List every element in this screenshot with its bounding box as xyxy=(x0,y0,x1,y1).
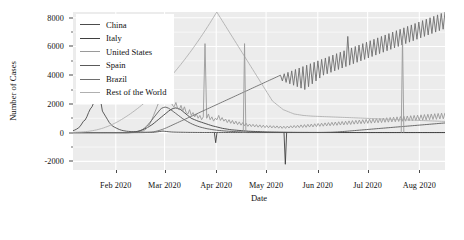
x-tick-label: Feb 2020 xyxy=(100,181,132,190)
y-tick-label: 4000 xyxy=(47,71,64,80)
x-axis-title: Date xyxy=(73,193,445,203)
y-tick-label: 0 xyxy=(60,128,64,137)
annotation-spike xyxy=(243,44,246,133)
legend-label: Rest of the World xyxy=(106,88,167,97)
x-tick-label: Apr 2020 xyxy=(200,181,232,190)
x-tick-mark xyxy=(318,170,319,173)
annotation-spike xyxy=(284,133,287,165)
legend[interactable]: ChinaItalyUnited StatesSpainBrazilRest o… xyxy=(76,14,174,104)
x-tick-label: Jul 2020 xyxy=(353,181,382,190)
legend-item[interactable]: Rest of the World xyxy=(80,86,167,100)
x-tick-mark xyxy=(266,170,267,173)
legend-label: Spain xyxy=(106,61,126,70)
x-tick-label: Mar 2020 xyxy=(148,181,181,190)
legend-item[interactable]: Spain xyxy=(80,59,167,73)
chart-figure: Number of Cases 80006000400020000-2000 C… xyxy=(0,0,464,240)
annotation-spike xyxy=(401,36,404,132)
legend-swatch-icon xyxy=(80,92,100,93)
y-tick-label: 6000 xyxy=(47,42,64,51)
legend-swatch-icon xyxy=(80,51,100,52)
x-tick-label: May 2020 xyxy=(249,181,283,190)
legend-item[interactable]: Brazil xyxy=(80,72,167,86)
x-tick-mark xyxy=(419,170,420,173)
y-tick-label: 8000 xyxy=(47,13,64,22)
x-tick-mark xyxy=(116,170,117,173)
y-tick-label: -2000 xyxy=(44,157,64,166)
x-tick-mark xyxy=(368,170,369,173)
x-tick-label: Jun 2020 xyxy=(302,181,333,190)
legend-swatch-icon xyxy=(80,65,100,66)
legend-item[interactable]: China xyxy=(80,18,167,32)
x-tick-mark xyxy=(165,170,166,173)
legend-label: United States xyxy=(106,48,152,57)
y-axis: 80006000400020000-2000 xyxy=(0,12,73,170)
x-tick-label: Aug 2020 xyxy=(403,181,436,190)
legend-item[interactable]: United States xyxy=(80,45,167,59)
legend-swatch-icon xyxy=(80,24,100,25)
x-tick-mark xyxy=(216,170,217,173)
legend-label: Italy xyxy=(106,34,122,43)
legend-swatch-icon xyxy=(80,38,100,39)
legend-swatch-icon xyxy=(80,79,100,80)
legend-label: China xyxy=(106,21,127,30)
legend-label: Brazil xyxy=(106,75,127,84)
x-axis: Feb 2020Mar 2020Apr 2020May 2020Jun 2020… xyxy=(73,170,445,210)
y-tick-label: 2000 xyxy=(47,99,64,108)
legend-item[interactable]: Italy xyxy=(80,32,167,46)
annotation-spike xyxy=(214,133,217,143)
